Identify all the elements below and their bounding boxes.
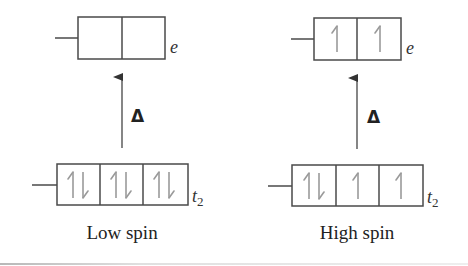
low-spin-caption: Low spin bbox=[86, 222, 157, 244]
spin-up-arrow-icon bbox=[353, 173, 358, 199]
spin-down-arrow-icon bbox=[126, 172, 131, 198]
high-spin-t2-level bbox=[268, 165, 423, 206]
spin-up-arrow-icon bbox=[375, 26, 380, 52]
e-label-text: e bbox=[406, 38, 414, 58]
spin-up-arrow-icon bbox=[332, 26, 337, 52]
low-spin-panel bbox=[32, 17, 188, 205]
high-spin-e-level bbox=[291, 18, 401, 60]
spin-up-arrow-icon bbox=[154, 172, 159, 198]
spin-up-arrow-icon bbox=[68, 172, 73, 198]
t2-label-subscript: 2 bbox=[432, 195, 439, 210]
t2-label-subscript: 2 bbox=[197, 194, 204, 209]
low-spin-t2-level bbox=[32, 164, 188, 205]
crystal-field-diagram bbox=[0, 0, 468, 266]
spin-down-arrow-icon bbox=[169, 172, 174, 198]
low-spin-e-level bbox=[55, 17, 165, 59]
e-label-text: e bbox=[170, 37, 178, 57]
high-spin-t2-label: t2 bbox=[427, 187, 439, 211]
spin-down-arrow-icon bbox=[83, 172, 88, 198]
low-spin-e-label: e bbox=[170, 37, 178, 58]
low-spin-t2-label: t2 bbox=[192, 186, 204, 210]
bottom-divider bbox=[0, 263, 468, 265]
spin-up-arrow-icon bbox=[111, 172, 116, 198]
spin-up-arrow-icon bbox=[396, 173, 401, 199]
high-spin-caption: High spin bbox=[320, 222, 394, 244]
spin-up-arrow-icon bbox=[304, 173, 309, 199]
high-spin-panel bbox=[268, 18, 423, 206]
high-spin-delta-label: Δ bbox=[367, 107, 380, 127]
spin-down-arrow-icon bbox=[319, 173, 324, 199]
high-spin-e-label: e bbox=[406, 38, 414, 59]
low-spin-delta-label: Δ bbox=[131, 106, 144, 126]
